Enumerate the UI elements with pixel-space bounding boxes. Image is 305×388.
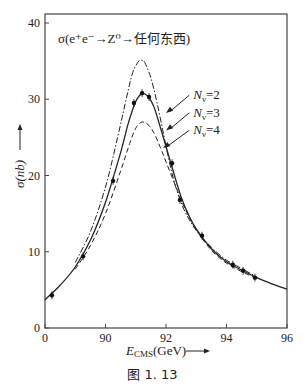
svg-text:20: 20: [28, 169, 40, 183]
curve-N3: [45, 94, 287, 300]
svg-text:σ(nb): σ(nb): [12, 160, 27, 188]
y-axis-label: σ(nb): [12, 124, 27, 188]
curve-label: Nν=4: [192, 122, 220, 139]
curves: [45, 60, 287, 300]
figure-caption: 图 1. 13: [0, 364, 305, 383]
plot-frame: [45, 14, 287, 328]
x-axis-label: ECMS(GeV): [125, 343, 210, 359]
curve-label: Nν=2: [192, 87, 220, 104]
svg-text:0: 0: [34, 321, 40, 335]
svg-text:10: 10: [28, 245, 40, 259]
svg-text:30: 30: [28, 92, 40, 106]
curve-N2: [75, 60, 257, 277]
svg-text:0: 0: [42, 331, 48, 345]
svg-text:94: 94: [221, 331, 233, 345]
arrow-up-icon: [18, 124, 23, 130]
svg-text:96: 96: [281, 331, 293, 345]
svg-text:40: 40: [28, 16, 40, 30]
curve-labels: Nν=2Nν=3Nν=4: [163, 87, 220, 148]
data-points: [50, 89, 257, 299]
svg-text:ECMS(GeV): ECMS(GeV): [125, 343, 186, 359]
curve-label: Nν=3: [192, 105, 220, 122]
arrow-right-icon: [204, 349, 210, 354]
cross-section-chart: 010203040090929496 Nν=2Nν=3Nν=4 σ(e⁺e⁻→Z…: [0, 0, 305, 388]
arrow-icon: [166, 107, 173, 113]
axis-ticks: 010203040090929496: [28, 16, 293, 345]
svg-text:90: 90: [100, 331, 112, 345]
chart-title: σ(e⁺e⁻→Z⁰→任何东西): [58, 31, 190, 46]
arrow-icon: [166, 124, 173, 130]
